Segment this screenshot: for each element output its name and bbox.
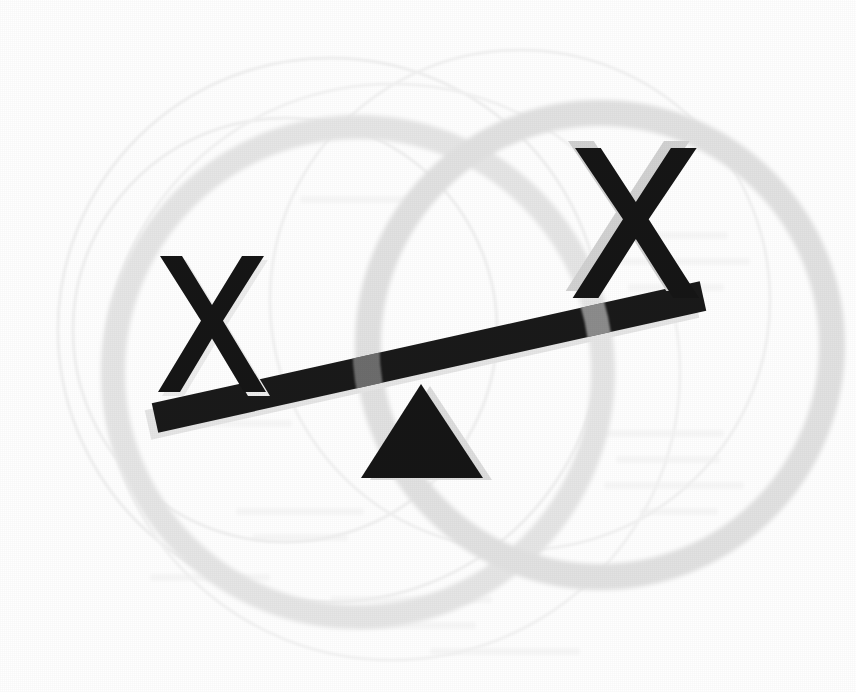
illustration-canvas bbox=[0, 0, 856, 692]
seesaw-illustration bbox=[0, 0, 856, 692]
